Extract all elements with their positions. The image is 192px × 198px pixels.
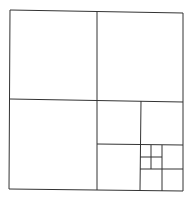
division-line (140, 101, 141, 190)
square-subdivision-diagram (0, 0, 192, 198)
division-line (9, 10, 10, 189)
division-line (97, 144, 183, 145)
division-line (9, 189, 183, 191)
